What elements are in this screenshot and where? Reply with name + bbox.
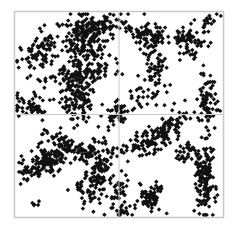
scatter-plot [0, 0, 237, 229]
